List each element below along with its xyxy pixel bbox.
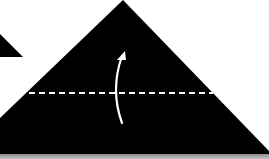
partial-triangle-left	[0, 34, 23, 57]
origami-diagram: Fold the bottom edge up along the dashed…	[0, 0, 269, 159]
diagram-canvas	[0, 0, 269, 159]
main-paper-triangle	[0, 0, 269, 154]
bottom-band	[0, 154, 269, 159]
